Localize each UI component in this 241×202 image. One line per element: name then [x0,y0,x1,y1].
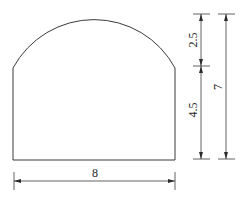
width-dimension: 8 [14,166,175,190]
arrow-left-icon [14,179,21,183]
total-height-label: 7 [211,84,225,90]
arrow-down-icon [199,152,203,159]
arrow-down-icon [199,59,203,66]
wall-height-label: 4.5 [186,103,200,118]
arrow-down-icon [224,152,228,159]
height-chain-dimension: 2.5 4.5 [186,14,210,159]
arrow-up-icon [199,66,203,73]
total-height-dimension: 7 [211,14,235,159]
arrow-up-icon [199,14,203,21]
width-label: 8 [92,166,98,180]
arched-section-outline [13,20,175,160]
arch-rise-label: 2.5 [186,33,200,48]
arrow-right-icon [168,179,175,183]
cross-section-diagram: 8 2.5 4.5 7 [0,0,241,202]
arrow-up-icon [224,14,228,21]
